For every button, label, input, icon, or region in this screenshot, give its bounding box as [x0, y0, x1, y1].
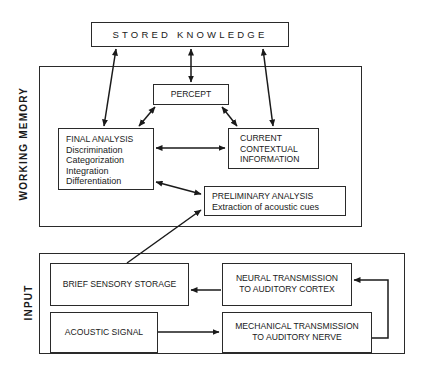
connector-arrows [0, 0, 427, 376]
